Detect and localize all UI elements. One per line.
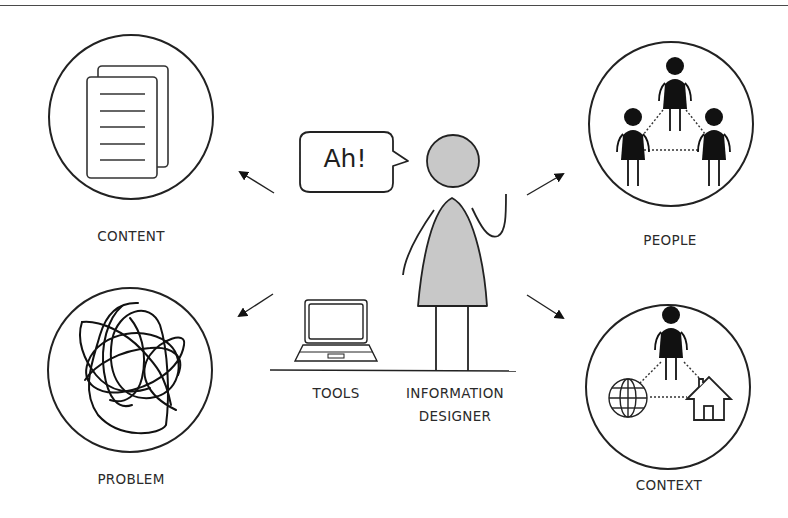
context-label: CONTEXT	[636, 477, 702, 494]
arrow-to-people	[527, 174, 563, 195]
laptop-icon	[295, 300, 377, 361]
people-node	[589, 42, 753, 206]
arrow-to-content	[240, 172, 274, 193]
house-icon	[687, 377, 731, 420]
content-node	[49, 35, 213, 199]
content-label: CONTENT	[97, 228, 164, 245]
people-label: PEOPLE	[643, 232, 696, 249]
person-globe-house-icon	[609, 306, 731, 420]
problem-label: PROBLEM	[97, 471, 164, 488]
arrow-to-problem	[239, 294, 273, 316]
information-designer-label-line2: DESIGNER	[419, 408, 491, 425]
ground-line	[270, 370, 516, 371]
globe-icon	[609, 379, 647, 417]
speech-bubble-text: Ah!	[324, 144, 367, 173]
documents-icon	[87, 66, 168, 178]
arrows	[239, 172, 563, 318]
problem-node	[48, 288, 212, 452]
arrow-to-context	[527, 295, 563, 318]
information-designer-label-line1: INFORMATION	[406, 385, 504, 402]
information-designer-figure	[403, 135, 506, 371]
people-network-icon	[617, 57, 730, 186]
context-node	[586, 305, 750, 469]
diagram-canvas	[0, 0, 788, 518]
scribble-icon	[80, 303, 184, 433]
tools-label: TOOLS	[312, 385, 359, 402]
person-icon	[655, 306, 687, 380]
